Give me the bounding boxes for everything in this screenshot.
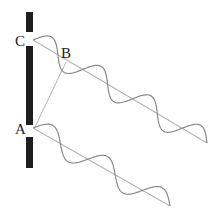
ray-from-a [33,128,170,206]
label-b: B [61,45,71,61]
ray-a-to-b [35,62,66,127]
diffraction-diagram: C B A [0,0,217,220]
ray-from-c [33,40,207,143]
label-a: A [15,121,26,137]
barrier [26,12,33,168]
label-c: C [15,33,25,49]
